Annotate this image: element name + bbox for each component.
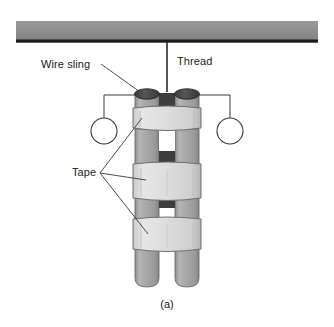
sling-ring-left: [91, 118, 117, 144]
tape-band-top: [133, 106, 201, 131]
cylinder-bottom-ends: [135, 248, 199, 287]
figure-caption: (a): [0, 298, 334, 310]
tape-band-bottom: [133, 217, 201, 252]
support-bar: [16, 21, 318, 43]
tape-band-middle: [133, 162, 201, 201]
diagram-canvas: [0, 0, 334, 327]
label-thread: Thread: [177, 55, 212, 67]
cylinder-assembly: [133, 89, 201, 287]
label-wire-sling: Wire sling: [41, 58, 90, 70]
figure-container: Wire sling Thread Tape (a): [0, 0, 334, 327]
cap-right: [175, 89, 200, 99]
wire-sling-left: [91, 95, 137, 144]
cylinder-mid-upper: [135, 129, 199, 165]
wire-sling-right: [197, 95, 243, 144]
label-tape: Tape: [72, 166, 96, 178]
leader-wire-sling: [101, 64, 140, 92]
sling-ring-right: [217, 118, 243, 144]
